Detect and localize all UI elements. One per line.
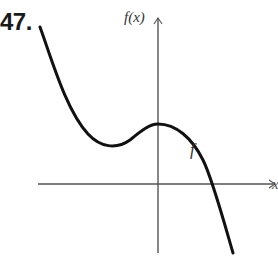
- x-axis-label: x: [272, 176, 278, 193]
- function-curve: [40, 27, 233, 253]
- y-axis-label: f(x): [124, 9, 145, 26]
- function-graph: [0, 0, 278, 259]
- curve-label: f: [190, 140, 195, 160]
